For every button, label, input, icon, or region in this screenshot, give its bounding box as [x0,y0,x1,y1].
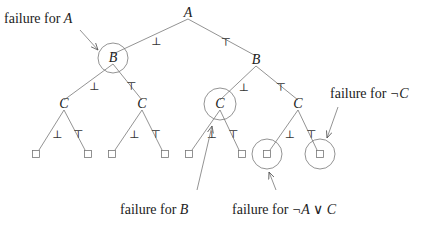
annotation-arrow-failNotAorC [269,172,276,190]
leaf-box-icon [162,151,169,158]
top-edge-label: ⊤ [306,128,316,140]
node-A-A: A [183,5,193,20]
annotation-formula: A [63,11,73,26]
annotation-prefix: failure for [4,11,64,26]
bottom-edge-label: ⊥ [285,128,295,140]
top-edge-label: ⊤ [221,36,231,48]
leaf-box-icon [317,151,324,158]
annotation-arrow-failB [197,126,212,190]
annotation-prefix: failure for [232,202,292,217]
leaf-box-icon [85,151,92,158]
leaf-box-icon [264,151,271,158]
annotation-failA: failure for A [4,11,73,26]
annotation-failNotAorC: failure for ¬A ∨ C [232,202,337,217]
top-edge-label: ⊤ [126,80,136,92]
bottom-edge-label: ⊥ [239,81,249,93]
bottom-edge-label: ⊥ [207,128,217,140]
annotation-failNotC: failure for ¬C [330,86,409,101]
node-C-C1: C [59,96,69,111]
leaf-box-icon [239,151,246,158]
decision-tree-diagram: ABBCCCC ⊥⊤⊥⊤⊥⊤⊥⊤⊥⊤⊥⊤⊥⊤ failure for Afail… [0,0,423,225]
annotation-arrow-failA [80,30,98,50]
diagram-svg: ABBCCCC ⊥⊤⊥⊤⊥⊤⊥⊤⊥⊤⊥⊤⊥⊤ failure for Afail… [0,0,423,225]
annotation-failB: failure for B [120,202,189,217]
node-B-B2: B [252,52,261,67]
annotation-prefix: failure for [120,202,180,217]
annotation-prefix: failure for [330,86,390,101]
bottom-edge-label: ⊥ [52,128,62,140]
node-C-C2: C [137,96,147,111]
annotation-formula: ¬C [390,86,409,101]
annotation-formula: ¬A ∨ C [292,202,337,217]
top-edge-label: ⊤ [228,128,238,140]
node-C-C3: C [215,96,225,111]
node-B-B1: B [109,50,118,65]
top-edge-label: ⊤ [73,128,83,140]
annotation-formula: B [180,202,189,217]
bottom-edge-label: ⊥ [89,80,99,92]
top-edge-label: ⊤ [151,128,161,140]
bottom-edge-label: ⊥ [129,128,139,140]
bottom-edge-label: ⊥ [151,35,161,47]
annotation-arrow-failNotC [327,107,338,138]
leaf-box-icon [186,151,193,158]
node-C-C4: C [293,96,303,111]
leaf-box-icon [33,151,40,158]
top-edge-label: ⊤ [276,81,286,93]
leaf-box-icon [109,151,116,158]
